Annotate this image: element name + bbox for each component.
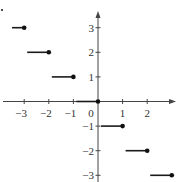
step-function-chart: −3−2−1120321−1−2−3 bbox=[0, 0, 178, 182]
x-tick-label: −3 bbox=[15, 107, 27, 119]
x-tick-label: −2 bbox=[40, 107, 52, 119]
closed-endpoint-dot bbox=[71, 75, 76, 80]
x-tick-label: 1 bbox=[120, 107, 126, 119]
y-tick-label: −1 bbox=[82, 120, 94, 132]
x-axis-arrow-icon bbox=[169, 99, 176, 104]
y-tick-label: 3 bbox=[89, 22, 95, 34]
closed-endpoint-dot bbox=[170, 173, 175, 178]
closed-endpoint-dot bbox=[47, 50, 52, 55]
origin-label: 0 bbox=[88, 107, 94, 119]
y-tick-label: 1 bbox=[89, 71, 95, 83]
closed-endpoint-dot bbox=[22, 25, 27, 30]
x-tick-label: 2 bbox=[144, 107, 150, 119]
y-axis-arrow-icon bbox=[96, 11, 101, 18]
y-tick-label: −2 bbox=[82, 145, 94, 157]
closed-endpoint-dot bbox=[145, 148, 150, 153]
y-tick-label: 2 bbox=[89, 46, 95, 58]
partial-endpoint-dot bbox=[1, 9, 3, 11]
x-tick-label: −1 bbox=[65, 107, 77, 119]
y-tick-label: −3 bbox=[82, 169, 94, 181]
closed-endpoint-dot bbox=[120, 124, 125, 129]
closed-endpoint-dot bbox=[96, 99, 101, 104]
